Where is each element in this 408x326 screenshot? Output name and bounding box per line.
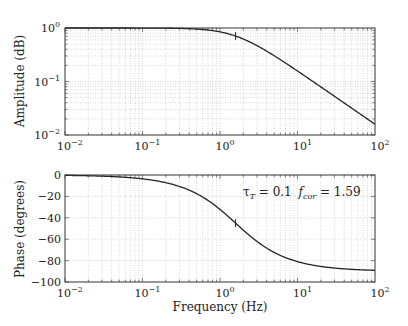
tick-label: −20 bbox=[38, 190, 61, 203]
amplitude-y-axis-label: Amplitude (dB) bbox=[13, 35, 27, 128]
phase-y-axis-label: Phase (degrees) bbox=[13, 180, 27, 278]
parameter-annotation: τT = 0.1 fcor = 1.59 bbox=[243, 185, 361, 201]
tick-label: 101 bbox=[293, 285, 312, 300]
tick-label: −60 bbox=[38, 233, 61, 246]
tick-label: 100 bbox=[41, 20, 60, 35]
tick-label: 10−1 bbox=[135, 285, 161, 300]
tick-label: 10−2 bbox=[57, 138, 83, 153]
bode-plot: 10−210−110010110210010−110−2 10−210−1100… bbox=[0, 0, 408, 326]
tick-label: −80 bbox=[38, 255, 61, 268]
tick-label: 10−1 bbox=[135, 138, 161, 153]
tick-label: 101 bbox=[293, 138, 312, 153]
tick-label: 100 bbox=[215, 285, 234, 300]
tick-label: 10−1 bbox=[34, 74, 60, 89]
tick-label: 102 bbox=[370, 285, 389, 300]
tick-label: −100 bbox=[31, 276, 61, 289]
tick-label: 0 bbox=[54, 169, 61, 182]
tick-label: 102 bbox=[370, 138, 389, 153]
tick-label: 100 bbox=[215, 138, 234, 153]
amplitude-panel: 10−210−110010110210010−110−2 bbox=[34, 20, 389, 153]
tick-label: −40 bbox=[38, 212, 61, 225]
x-axis-label: Frequency (Hz) bbox=[173, 300, 268, 314]
